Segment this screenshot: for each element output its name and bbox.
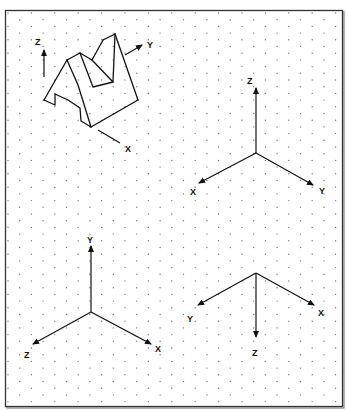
y-label: Y (319, 186, 325, 196)
isometric-worksheet: Z Y X Z X Y Y Z X Y X Z (0, 0, 348, 410)
sheet-border (6, 11, 343, 407)
x-axis-label: X (125, 144, 131, 154)
x-label: X (318, 308, 324, 318)
z-label: Z (252, 348, 258, 358)
z-label: Z (247, 76, 253, 86)
y-axis-label: Y (147, 40, 153, 50)
z-label: Z (24, 350, 30, 360)
x-label: X (155, 344, 161, 354)
z-axis-label: Z (35, 37, 41, 47)
y-label: Y (87, 235, 93, 245)
y-label: Y (187, 314, 193, 324)
x-label: X (190, 187, 196, 197)
